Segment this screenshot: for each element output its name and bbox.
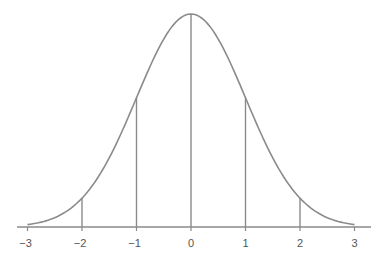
x-axis-tick-labels: −3−2−10123 bbox=[19, 237, 357, 249]
x-tick-label: −2 bbox=[74, 237, 87, 249]
x-tick-label: 0 bbox=[188, 237, 194, 249]
x-tick-label: −3 bbox=[19, 237, 32, 249]
x-tick-label: 2 bbox=[297, 237, 303, 249]
sd-vertical-lines bbox=[82, 14, 300, 227]
x-tick-label: 1 bbox=[242, 237, 248, 249]
x-tick-label: 3 bbox=[351, 237, 357, 249]
normal-distribution-chart: −3−2−10123 bbox=[0, 0, 388, 260]
x-tick-label: −1 bbox=[128, 237, 141, 249]
